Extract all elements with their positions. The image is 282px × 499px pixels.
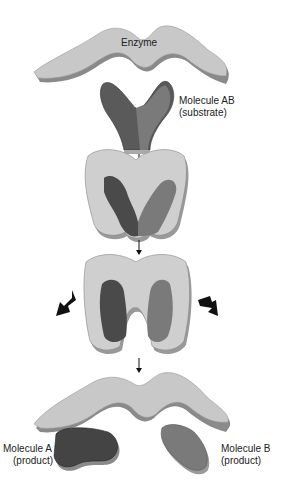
enzyme-shape-bottom [34,373,230,433]
product-b-label-line2: (product) [221,455,261,467]
substrate-label-line1: Molecule AB [179,95,235,107]
enzyme-substrate-complex [85,150,188,242]
substrate-label-line2: (substrate) [179,107,227,119]
enzyme-shape-top [34,26,229,84]
arrow-down-icon [136,240,142,255]
product-b-label-line1: Molecule B [221,443,270,455]
split-arrow-right-icon [198,296,218,316]
arrow-down-icon [136,358,142,373]
molecule-b-product [161,425,209,475]
enzyme-diagram [0,0,282,499]
enzyme-label: Enzyme [121,37,157,49]
product-a-label-line1: Molecule A [3,443,52,455]
product-a-label-line2: (product) [13,455,53,467]
molecule-a-product [54,428,120,471]
enzyme-splitting-stage [84,255,192,355]
molecule-ab-substrate [100,81,173,154]
split-arrow-left-icon [56,290,76,316]
